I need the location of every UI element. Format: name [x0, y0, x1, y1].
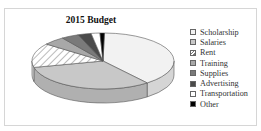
legend-label: Transportation — [200, 89, 248, 98]
legend-item-transportation: Transportation — [190, 89, 248, 99]
chart-legend: ScholarshipSalariesRentTrainingSuppliesA… — [190, 27, 248, 109]
legend-label: Supplies — [200, 69, 228, 78]
legend-label: Training — [200, 59, 228, 68]
legend-label: Advertising — [200, 79, 239, 88]
legend-label: Scholarship — [200, 28, 239, 37]
legend-item-supplies: Supplies — [190, 68, 248, 78]
legend-item-salaries: Salaries — [190, 37, 248, 47]
legend-swatch — [190, 81, 196, 87]
legend-label: Salaries — [200, 38, 226, 47]
legend-item-training: Training — [190, 58, 248, 68]
legend-item-scholarship: Scholarship — [190, 27, 248, 37]
legend-label: Rent — [200, 48, 215, 57]
legend-swatch — [190, 29, 196, 35]
legend-item-other: Other — [190, 99, 248, 109]
legend-swatch — [190, 39, 196, 45]
legend-item-rent: Rent — [190, 48, 248, 58]
legend-item-advertising: Advertising — [190, 78, 248, 88]
legend-swatch — [190, 91, 196, 97]
pie-slices — [32, 33, 174, 89]
legend-swatch — [190, 70, 196, 76]
legend-label: Other — [200, 100, 219, 109]
legend-swatch — [190, 50, 196, 56]
legend-swatch — [190, 60, 196, 66]
legend-swatch — [190, 101, 196, 107]
